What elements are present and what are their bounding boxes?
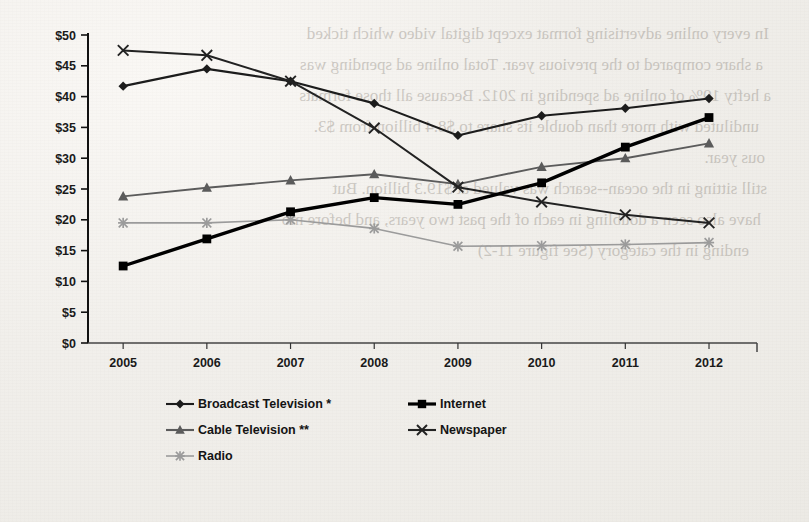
diamond-marker — [176, 400, 185, 409]
square-marker — [418, 400, 426, 408]
square-marker — [370, 193, 379, 202]
y-tick-label: $40 — [55, 90, 76, 104]
data-point-marker — [286, 207, 295, 216]
diamond-marker — [370, 99, 379, 108]
series-layer — [118, 45, 714, 270]
series-radio — [118, 215, 714, 252]
line-chart: $0$5$10$15$20$25$30$35$40$45$50 20052006… — [0, 0, 809, 522]
data-point-marker — [202, 64, 211, 73]
data-point-marker — [537, 178, 546, 187]
y-tick-label: $45 — [55, 59, 76, 73]
chart-canvas: $0$5$10$15$20$25$30$35$40$45$50 20052006… — [0, 0, 809, 522]
diamond-marker — [621, 104, 630, 113]
data-point-marker — [370, 99, 379, 108]
legend-item-cable-television[interactable]: Cable Television ** — [166, 423, 309, 437]
chart-legend: Broadcast Television *InternetCable Tele… — [166, 397, 507, 463]
square-marker — [454, 200, 463, 209]
legend-item-radio[interactable]: Radio — [166, 449, 233, 463]
y-tick-label: $35 — [55, 121, 76, 135]
diamond-marker — [118, 81, 127, 90]
data-point-marker — [202, 234, 211, 243]
data-point-marker — [119, 262, 128, 271]
legend-label: Cable Television ** — [198, 423, 309, 437]
square-marker — [621, 143, 630, 152]
series-line — [123, 50, 709, 222]
data-point-marker — [418, 400, 426, 408]
data-point-marker — [704, 138, 714, 147]
data-point-marker — [704, 237, 714, 247]
y-tick-label: $20 — [55, 213, 76, 227]
legend-item-internet[interactable]: Internet — [408, 397, 487, 411]
data-point-marker — [176, 400, 185, 409]
x-tick-label: 2010 — [528, 356, 556, 370]
data-point-marker — [704, 94, 713, 103]
square-marker — [202, 234, 211, 243]
x-tick-label: 2008 — [360, 356, 388, 370]
data-point-marker — [285, 215, 295, 225]
data-point-marker — [621, 104, 630, 113]
y-tick-label: $15 — [55, 244, 76, 258]
data-point-marker — [175, 451, 185, 461]
x-tick-label: 2011 — [612, 356, 639, 370]
triangle-marker — [704, 138, 714, 147]
y-tick-label: $25 — [55, 183, 76, 197]
y-tick-label: $0 — [62, 337, 76, 351]
square-marker — [286, 207, 295, 216]
data-point-marker — [369, 223, 379, 233]
y-tick-label: $5 — [62, 306, 76, 320]
square-marker — [537, 178, 546, 187]
data-point-marker — [202, 218, 212, 228]
data-point-marker — [705, 113, 714, 122]
legend-item-broadcast-television[interactable]: Broadcast Television * — [166, 397, 331, 411]
y-tick-label: $30 — [55, 152, 76, 166]
square-marker — [119, 262, 128, 271]
square-marker — [705, 113, 714, 122]
data-point-marker — [453, 131, 462, 140]
legend-item-newspaper[interactable]: Newspaper — [408, 423, 507, 437]
legend-label: Radio — [198, 449, 233, 463]
diamond-marker — [704, 94, 713, 103]
x-tick-label: 2006 — [193, 356, 221, 370]
x-tick-label: 2005 — [109, 356, 137, 370]
x-axis: 20052006200720082009201020112012 — [88, 343, 757, 370]
data-point-marker — [369, 123, 380, 134]
x-tick-label: 2009 — [444, 356, 472, 370]
data-point-marker — [621, 143, 630, 152]
y-tick-label: $50 — [55, 29, 76, 43]
data-point-marker — [620, 239, 630, 249]
series-broadcast-television — [118, 64, 713, 140]
legend-label: Newspaper — [440, 423, 507, 437]
data-point-marker — [537, 241, 547, 251]
diamond-marker — [537, 111, 546, 120]
y-tick-label: $10 — [55, 275, 76, 289]
data-point-marker — [118, 218, 128, 228]
series-line — [123, 69, 709, 136]
data-point-marker — [118, 81, 127, 90]
x-tick-label: 2012 — [695, 356, 723, 370]
legend-label: Broadcast Television * — [198, 397, 331, 411]
diamond-marker — [202, 64, 211, 73]
data-point-marker — [453, 241, 463, 251]
y-axis: $0$5$10$15$20$25$30$35$40$45$50 — [55, 29, 88, 351]
data-point-marker — [370, 193, 379, 202]
diamond-marker — [453, 131, 462, 140]
data-point-marker — [454, 200, 463, 209]
x-tick-label: 2007 — [277, 356, 305, 370]
data-point-marker — [537, 111, 546, 120]
legend-label: Internet — [440, 397, 487, 411]
